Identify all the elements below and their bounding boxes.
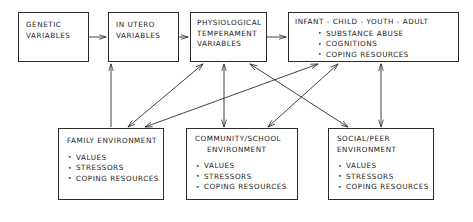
node-genetic-title-line1: GENETIC: [26, 20, 88, 31]
node-infant-title: INFANT - CHILD - YOUTH - ADULT: [295, 17, 458, 28]
node-socialpeer-title-line1: SOCIAL/PEER: [337, 134, 433, 145]
diagram-canvas: GENETIC VARIABLES IN UTERO VARIABLES PHY…: [0, 0, 473, 222]
node-social-peer-environment: SOCIAL/PEER ENVIRONMENT VALUES STRESSORS…: [328, 128, 434, 200]
node-family-bullet-list: VALUES STRESSORS COPING RESOURCES: [67, 153, 163, 185]
node-physio-title-line2: TEMPERAMENT: [197, 29, 266, 40]
node-physiological-temperament-variables: PHYSIOLOGICAL TEMPERAMENT VARIABLES: [190, 12, 267, 62]
list-item: COGNITIONS: [317, 39, 458, 50]
node-family-title-line1: FAMILY ENVIRONMENT: [67, 136, 163, 147]
list-item: COPING RESOURCES: [337, 182, 433, 193]
list-item: VALUES: [67, 153, 163, 164]
node-physio-title-line3: VARIABLES: [197, 39, 266, 50]
arrow-physio-family: [128, 64, 203, 127]
node-socialpeer-title-line2: ENVIRONMENT: [337, 145, 433, 156]
list-item: COPING RESOURCES: [317, 50, 458, 61]
list-item: COPING RESOURCES: [67, 174, 163, 185]
node-infant-bullet-list: SUBSTANCE ABUSE COGNITIONS COPING RESOUR…: [295, 28, 458, 61]
list-item: VALUES: [337, 161, 433, 172]
arrow-physio-socialpeer: [250, 64, 348, 127]
node-in-utero-title-line2: VARIABLES: [116, 31, 178, 42]
list-item: STRESSORS: [337, 172, 433, 183]
node-in-utero-title-line1: IN UTERO: [116, 20, 178, 31]
node-genetic-variables: GENETIC VARIABLES: [18, 12, 89, 62]
node-infant-child-youth-adult: INFANT - CHILD - YOUTH - ADULT SUBSTANCE…: [288, 12, 459, 62]
node-in-utero-variables: IN UTERO VARIABLES: [108, 12, 179, 62]
node-community-school-environment: COMMUNITY/SCHOOL ENVIRONMENT VALUES STRE…: [186, 128, 298, 200]
list-item: STRESSORS: [67, 163, 163, 174]
arrow-infant-community: [268, 64, 338, 127]
list-item: SUBSTANCE ABUSE: [317, 29, 458, 40]
node-genetic-title-line2: VARIABLES: [26, 31, 88, 42]
node-community-bullet-list: VALUES STRESSORS COPING RESOURCES: [195, 161, 297, 193]
node-physio-title-line1: PHYSIOLOGICAL: [197, 18, 266, 29]
node-community-title-line2: ENVIRONMENT: [195, 145, 297, 156]
list-item: COPING RESOURCES: [195, 182, 297, 193]
list-item: VALUES: [195, 161, 297, 172]
node-community-title-line1: COMMUNITY/SCHOOL: [195, 134, 297, 145]
node-family-environment: FAMILY ENVIRONMENT VALUES STRESSORS COPI…: [58, 128, 164, 200]
node-socialpeer-bullet-list: VALUES STRESSORS COPING RESOURCES: [337, 161, 433, 193]
list-item: STRESSORS: [195, 172, 297, 183]
arrow-infant-family: [145, 64, 318, 127]
